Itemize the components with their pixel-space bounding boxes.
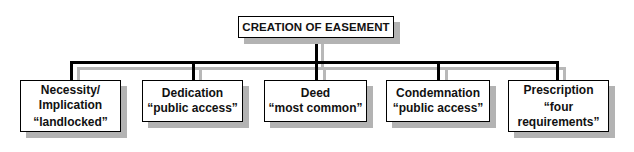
node-title: Condemnation [396,86,480,101]
connector-vertical-root [315,38,318,63]
root-node-creation-of-easement: CREATION OF EASEMENT [238,16,394,38]
connector-shadow-drop-4 [445,67,448,81]
node-necessity-implication: Necessity/ Implication “landlocked” [20,80,121,132]
node-dedication: Dedication “public access” [142,80,243,122]
node-condemnation: Condemnation “public access” [386,80,490,122]
root-node-label: CREATION OF EASEMENT [242,20,389,35]
node-prescription: Prescription “four requirements” [508,80,609,132]
connector-drop-2 [192,61,195,81]
connector-drop-4 [437,61,440,81]
connector-shadow-drop-3 [323,67,326,81]
node-note: “public access” [393,101,484,116]
node-note-line-2: requirements” [517,115,599,130]
node-deed: Deed “most common” [264,80,367,122]
connector-shadow-drop-2 [199,67,202,81]
connector-shadow-drop-5 [563,67,566,81]
node-note-line-1: “four [544,100,573,115]
connector-shadow-vertical-root [321,38,324,69]
node-note: “landlocked” [33,115,108,130]
node-title: Prescription [523,83,593,98]
connector-shadow-drop-1 [77,67,80,81]
node-title-line-1: Necessity/ [41,83,100,98]
node-note: “most common” [268,101,362,116]
node-title-line-2: Implication [39,98,102,113]
connector-shadow-horizontal [77,67,566,70]
node-title: Deed [301,86,330,101]
node-title: Dedication [162,86,223,101]
connector-drop-1 [70,61,73,81]
easement-hierarchy-diagram: CREATION OF EASEMENT Necessity/ Implicat… [0,0,634,152]
connector-drop-3 [315,61,318,81]
connector-drop-5 [556,61,559,81]
node-note: “public access” [147,101,238,116]
